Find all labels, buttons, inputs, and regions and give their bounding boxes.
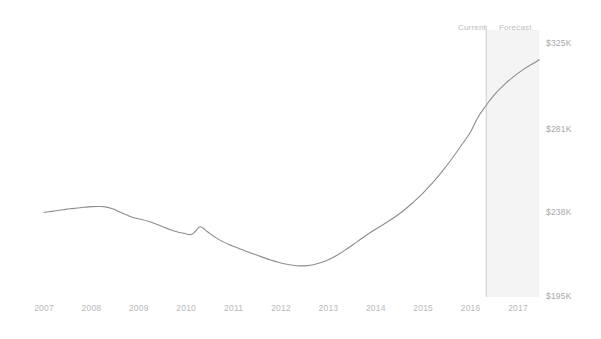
x-axis-tick-label: 2010	[176, 303, 196, 313]
y-axis-tick-label: $195K	[546, 291, 572, 301]
forecast-band-label: Forecast	[499, 23, 532, 32]
y-axis-tick-label: $238K	[546, 207, 572, 217]
x-axis-tick-label: 2012	[271, 303, 291, 313]
line-chart: Current Forecast $325K$281K$238K$195K 20…	[0, 0, 601, 339]
x-axis-tick-label: 2007	[34, 303, 54, 313]
x-axis-tick-label: 2017	[508, 303, 528, 313]
x-axis-tick-label: 2008	[82, 303, 102, 313]
current-band-label: Current	[458, 23, 487, 32]
y-axis-tick-labels: $325K$281K$238K$195K	[546, 38, 572, 301]
series-line-median-home-value	[44, 60, 539, 266]
x-axis-tick-label: 2014	[366, 303, 386, 313]
chart-container: Current Forecast $325K$281K$238K$195K 20…	[0, 0, 601, 339]
x-axis-tick-label: 2009	[129, 303, 149, 313]
y-axis-tick-label: $281K	[546, 124, 572, 134]
x-axis-tick-label: 2013	[319, 303, 339, 313]
x-axis-tick-label: 2011	[224, 303, 243, 313]
forecast-band	[486, 30, 539, 297]
x-axis-tick-label: 2016	[461, 303, 481, 313]
x-axis-tick-label: 2015	[413, 303, 433, 313]
y-axis-tick-label: $325K	[546, 38, 572, 48]
x-axis-tick-labels: 2007200820092010201120122013201420152016…	[34, 303, 528, 313]
